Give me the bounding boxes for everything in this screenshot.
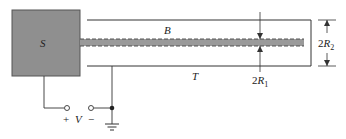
beam-label: B — [164, 24, 171, 36]
source-lead-wire — [44, 76, 64, 108]
voltage-plus-label: + — [63, 113, 69, 125]
r2-arrow-up-icon — [324, 20, 330, 26]
source-label: S — [40, 37, 46, 49]
junction-dot-icon — [110, 106, 115, 111]
positive-terminal-icon — [65, 106, 70, 111]
r1-arrow-down-icon — [257, 33, 263, 39]
voltage-label: V — [75, 113, 83, 125]
r2-dimension-label: 2R2 — [318, 37, 334, 52]
tube-label: T — [192, 70, 199, 82]
r1-arrow-up-icon — [257, 46, 263, 52]
beam — [80, 39, 304, 46]
r2-arrow-down-icon — [324, 60, 330, 66]
voltage-minus-label: − — [88, 113, 94, 125]
source-box — [12, 10, 80, 76]
ground-icon — [105, 124, 119, 130]
r1-dimension-label: 2R1 — [252, 74, 268, 89]
negative-terminal-icon — [89, 106, 94, 111]
electron-beam-diagram: S B T 2R1 2R2 + V − — [0, 0, 346, 139]
